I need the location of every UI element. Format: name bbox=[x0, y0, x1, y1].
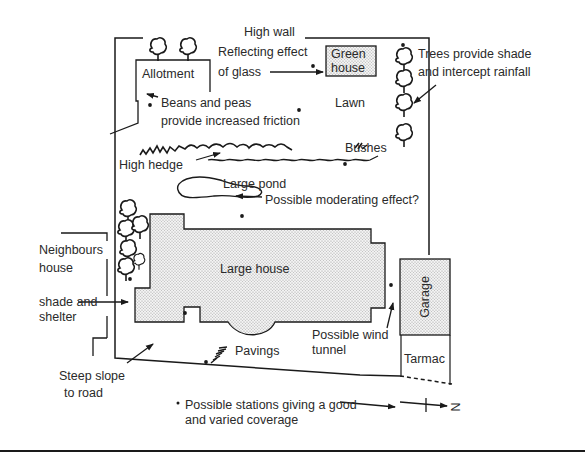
label-north: N bbox=[449, 402, 463, 411]
tree-icon bbox=[132, 216, 148, 239]
tree-icon bbox=[396, 124, 412, 147]
label-trees-2: and intercept rainfall bbox=[418, 65, 531, 79]
label-slope-2: to road bbox=[64, 386, 103, 400]
label-tarmac: Tarmac bbox=[404, 352, 445, 366]
label-neighbours-1: Neighbours bbox=[39, 243, 103, 257]
label-wind-2: tunnel bbox=[312, 343, 346, 357]
label-reflecting-2: of glass bbox=[218, 65, 261, 79]
label-shade-2: shelter bbox=[39, 310, 77, 324]
label-beans-2: provide increased friction bbox=[161, 114, 300, 128]
label-greenhouse-2: house bbox=[331, 61, 365, 75]
label-high-wall: High wall bbox=[244, 25, 295, 39]
label-bushes: Bushes bbox=[345, 141, 387, 155]
legend-text-1: Possible stations giving a good bbox=[185, 398, 357, 412]
tree-icon bbox=[150, 38, 166, 61]
legend-text-2: and varied coverage bbox=[185, 413, 298, 427]
north-arrow-icon bbox=[400, 398, 447, 412]
label-trees-1: Trees provide shade bbox=[418, 47, 532, 61]
tree-icon bbox=[396, 70, 412, 93]
label-high-hedge: High hedge bbox=[119, 158, 183, 172]
label-beans-1: Beans and peas bbox=[161, 96, 251, 110]
label-greenhouse-1: Green bbox=[331, 47, 366, 61]
tree-icon bbox=[180, 38, 196, 61]
label-allotment: Allotment bbox=[142, 67, 194, 81]
label-wind-1: Possible wind bbox=[312, 328, 388, 342]
label-garage: Garage bbox=[418, 272, 432, 322]
label-pavings: Pavings bbox=[235, 344, 279, 358]
label-moderating: Possible moderating effect? bbox=[265, 193, 419, 207]
tree-icon bbox=[396, 94, 412, 117]
label-slope-1: Steep slope bbox=[59, 369, 125, 383]
tree-icon bbox=[118, 258, 134, 281]
label-large-house: Large house bbox=[220, 262, 290, 276]
tree-icon bbox=[396, 48, 412, 71]
pavings-hatch bbox=[211, 347, 227, 363]
label-neighbours-2: house bbox=[39, 261, 73, 275]
label-lawn: Lawn bbox=[335, 96, 365, 110]
label-reflecting-1: Reflecting effect bbox=[218, 45, 307, 59]
label-large-pond: Large pond bbox=[223, 177, 286, 191]
label-shade-1: shade and bbox=[39, 295, 97, 309]
